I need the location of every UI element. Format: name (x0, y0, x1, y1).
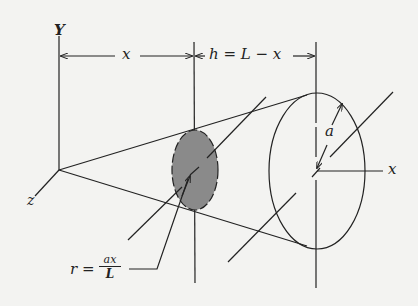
x-axis-label: x (388, 162, 396, 177)
radius-r-fraction: ax L (99, 254, 121, 280)
radius-r-label: r = (70, 262, 95, 277)
y-axis-label: Y (54, 23, 65, 38)
fraction-numerator: ax (99, 254, 121, 266)
z-axis-label: z (27, 193, 34, 207)
z-axis-line (35, 170, 59, 196)
radius-a-arrow-down (317, 145, 327, 168)
plane-line-3 (228, 193, 296, 262)
dim-x-label: x (122, 47, 130, 62)
plane-line-1 (207, 97, 266, 158)
fraction-denominator: L (99, 267, 121, 280)
radius-a-label: a (325, 124, 334, 139)
dim-h-label: h = L − x (209, 47, 281, 62)
cone-disk-diagram: Y z x x h = L − x a r = ax L (0, 0, 418, 306)
plane-line-2 (128, 187, 182, 240)
base-center-stub (312, 168, 320, 177)
